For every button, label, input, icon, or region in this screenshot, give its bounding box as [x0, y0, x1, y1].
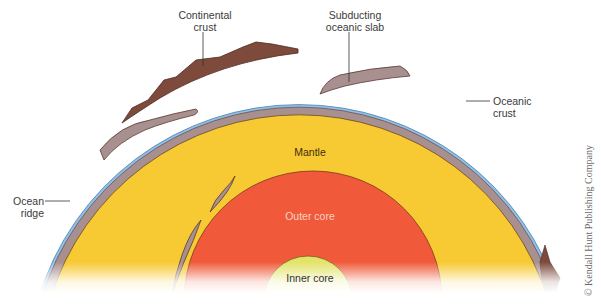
label-oceanic-crust: Oceanic crust [493, 95, 553, 119]
label-line: crust [170, 21, 240, 33]
bottom-fade [0, 262, 601, 306]
label-line: Oceanic [493, 95, 553, 107]
label-inner-core: Inner core [270, 272, 350, 284]
label-subducting-slab: Subducting oceanic slab [315, 9, 395, 33]
label-line: ridge [2, 207, 44, 219]
label-mantle: Mantle [270, 146, 350, 158]
subducting-oceanic-slab [320, 66, 410, 94]
label-line: Continental [170, 9, 240, 21]
copyright-notice: © Kendall Hunt Publishing Company [583, 145, 594, 296]
label-line: crust [493, 107, 553, 119]
label-ocean-ridge: Ocean ridge [2, 195, 44, 219]
label-continental-crust: Continental crust [170, 9, 240, 33]
label-line: oceanic slab [315, 21, 395, 33]
label-outer-core: Outer core [270, 210, 350, 222]
label-line: Ocean [2, 195, 44, 207]
label-line: Subducting [315, 9, 395, 21]
